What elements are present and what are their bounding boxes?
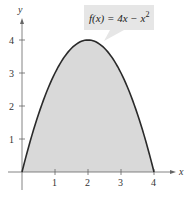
x-axis-label: x (178, 166, 184, 177)
x-tick-label: 1 (52, 177, 57, 188)
function-annotation: f(x) = 4x − x2 (84, 5, 154, 41)
area-chart: x y 1 2 3 4 1 2 3 4 f(x) = 4x − x2 (0, 0, 188, 201)
y-axis-label: y (17, 4, 23, 15)
x-tick-label: 2 (85, 177, 90, 188)
annotation-exponent: 2 (145, 10, 149, 19)
x-tick-label: 3 (118, 177, 123, 188)
y-ticks: 1 2 3 4 (9, 35, 25, 145)
annotation-text: f(x) = 4x − x2 (89, 10, 149, 25)
y-tick-label: 4 (9, 35, 14, 46)
y-axis: y (17, 4, 24, 190)
y-axis-arrow-icon (20, 18, 24, 24)
y-tick-label: 3 (9, 68, 14, 79)
x-tick-label: 4 (151, 177, 156, 188)
y-tick-label: 2 (9, 101, 14, 112)
annotation-text-main: f(x) = 4x − x (89, 12, 145, 25)
y-tick-label: 1 (9, 134, 14, 145)
annotation-pointer (104, 30, 124, 41)
x-axis-arrow-icon (170, 170, 176, 174)
